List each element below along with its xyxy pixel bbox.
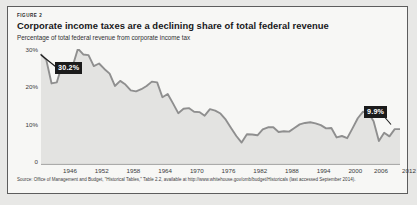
chart-plot-area xyxy=(41,49,400,165)
y-tick-label: 20% xyxy=(26,83,38,90)
y-tick-label: 0 xyxy=(35,158,38,165)
x-tick-label: 2012 xyxy=(402,167,416,174)
page-title: Corporate income taxes are a declining s… xyxy=(17,20,399,31)
source-note: Source: Office of Management and Budget,… xyxy=(17,177,398,183)
x-tick-label: 1988 xyxy=(285,167,299,174)
x-tick-label: 1952 xyxy=(95,167,109,174)
x-tick-label: 1946 xyxy=(63,167,77,174)
x-tick-label: 2000 xyxy=(348,167,362,174)
callout-last-value: 9.9% xyxy=(364,106,387,118)
x-tick-label: 1964 xyxy=(158,167,172,174)
x-tick-label: 1976 xyxy=(222,167,236,174)
area-chart-svg xyxy=(41,49,400,165)
figure-kicker: FIGURE 2 xyxy=(17,13,42,18)
x-tick-label: 1958 xyxy=(127,167,141,174)
y-tick-label: 10% xyxy=(26,120,38,127)
x-tick-label: 1970 xyxy=(190,167,204,174)
x-tick-label: 1994 xyxy=(317,167,331,174)
callout-peak-value: 30.2% xyxy=(55,62,82,74)
x-tick-label: 2006 xyxy=(374,167,388,174)
x-tick-label: 1982 xyxy=(253,167,267,174)
figure-card: FIGURE 2 Corporate income taxes are a de… xyxy=(7,6,408,194)
y-axis: 30% 20% 10% 0 xyxy=(17,45,41,175)
y-tick-label: 30% xyxy=(26,46,38,53)
figure-subtitle: Percentage of total federal revenue from… xyxy=(17,34,399,42)
